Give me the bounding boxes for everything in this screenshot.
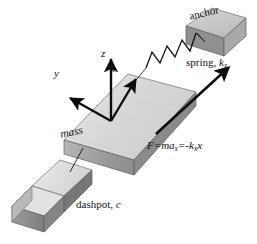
force-equation-label: F=max=-kxx	[147, 139, 202, 153]
force-eq-part1: F=ma	[147, 139, 175, 151]
x-axis-label: x	[110, 62, 115, 74]
force-eq-part2: =-k	[178, 139, 194, 151]
dashpot-coefficient-symbol: c	[116, 198, 121, 210]
spring-stiffness-subscript: x	[224, 61, 227, 70]
z-axis-label: z	[101, 47, 105, 59]
y-axis-label: y	[54, 67, 59, 79]
diagram-svg	[0, 0, 257, 244]
dashpot-label-text: dashpot,	[76, 198, 116, 210]
dashpot-label: dashpot, c	[76, 198, 121, 210]
figure-canvas: anchor spring, kx mass dashpot, c F=max=…	[0, 0, 257, 244]
dashpot-block	[12, 160, 92, 232]
force-eq-part3: x	[197, 139, 202, 151]
spring-label-text: spring,	[186, 56, 219, 68]
spring-label: spring, kx	[186, 56, 227, 70]
